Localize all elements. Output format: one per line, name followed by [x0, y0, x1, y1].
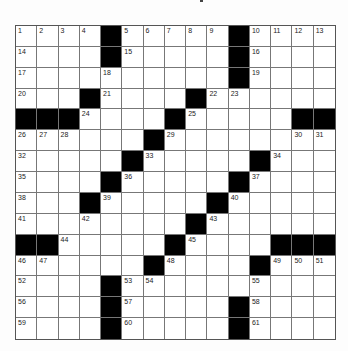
grid-cell[interactable]: [292, 172, 313, 193]
grid-cell[interactable]: 50: [292, 256, 313, 277]
grid-cell[interactable]: [59, 89, 80, 110]
grid-cell[interactable]: [207, 235, 228, 256]
grid-cell[interactable]: 1: [16, 26, 37, 47]
grid-cell[interactable]: [229, 151, 250, 172]
grid-cell[interactable]: [250, 214, 271, 235]
grid-cell[interactable]: [314, 297, 335, 318]
grid-cell[interactable]: [207, 256, 228, 277]
grid-cell[interactable]: 14: [16, 47, 37, 68]
grid-cell[interactable]: [250, 109, 271, 130]
grid-cell[interactable]: 40: [229, 193, 250, 214]
grid-cell[interactable]: [122, 193, 143, 214]
grid-cell[interactable]: [186, 47, 207, 68]
grid-cell[interactable]: [144, 297, 165, 318]
grid-cell[interactable]: [292, 89, 313, 110]
grid-cell[interactable]: [101, 151, 122, 172]
grid-cell[interactable]: 29: [165, 130, 186, 151]
grid-cell[interactable]: 26: [16, 130, 37, 151]
grid-cell[interactable]: [186, 297, 207, 318]
grid-cell[interactable]: [80, 235, 101, 256]
grid-cell[interactable]: [271, 109, 292, 130]
grid-cell[interactable]: [37, 47, 58, 68]
grid-cell[interactable]: 5: [122, 26, 143, 47]
grid-cell[interactable]: 43: [207, 214, 228, 235]
grid-cell[interactable]: [314, 214, 335, 235]
grid-cell[interactable]: 33: [144, 151, 165, 172]
grid-cell[interactable]: 7: [165, 26, 186, 47]
grid-cell[interactable]: 17: [16, 68, 37, 89]
grid-cell[interactable]: [80, 276, 101, 297]
grid-cell[interactable]: [165, 172, 186, 193]
grid-cell[interactable]: 4: [80, 26, 101, 47]
grid-cell[interactable]: 21: [101, 89, 122, 110]
grid-cell[interactable]: [186, 318, 207, 339]
grid-cell[interactable]: [250, 235, 271, 256]
grid-cell[interactable]: [186, 276, 207, 297]
grid-cell[interactable]: [292, 193, 313, 214]
grid-cell[interactable]: [165, 193, 186, 214]
grid-cell[interactable]: 28: [59, 130, 80, 151]
grid-cell[interactable]: [59, 276, 80, 297]
grid-cell[interactable]: 24: [80, 109, 101, 130]
grid-cell[interactable]: [37, 89, 58, 110]
grid-cell[interactable]: [101, 214, 122, 235]
grid-cell[interactable]: 35: [16, 172, 37, 193]
grid-cell[interactable]: [59, 297, 80, 318]
grid-cell[interactable]: 52: [16, 276, 37, 297]
grid-cell[interactable]: 58: [250, 297, 271, 318]
grid-cell[interactable]: [37, 151, 58, 172]
grid-cell[interactable]: [165, 276, 186, 297]
grid-cell[interactable]: [59, 68, 80, 89]
grid-cell[interactable]: 8: [186, 26, 207, 47]
grid-cell[interactable]: [186, 68, 207, 89]
grid-cell[interactable]: [80, 47, 101, 68]
grid-cell[interactable]: [165, 151, 186, 172]
grid-cell[interactable]: [314, 318, 335, 339]
grid-cell[interactable]: 6: [144, 26, 165, 47]
grid-cell[interactable]: 32: [16, 151, 37, 172]
grid-cell[interactable]: 45: [186, 235, 207, 256]
grid-cell[interactable]: [122, 68, 143, 89]
grid-cell[interactable]: 49: [271, 256, 292, 277]
grid-cell[interactable]: [122, 235, 143, 256]
grid-cell[interactable]: 36: [122, 172, 143, 193]
grid-cell[interactable]: [165, 68, 186, 89]
grid-cell[interactable]: 13: [314, 26, 335, 47]
grid-cell[interactable]: [271, 68, 292, 89]
grid-cell[interactable]: [144, 235, 165, 256]
grid-cell[interactable]: 37: [250, 172, 271, 193]
grid-cell[interactable]: [165, 214, 186, 235]
grid-cell[interactable]: [80, 68, 101, 89]
grid-cell[interactable]: [207, 276, 228, 297]
grid-cell[interactable]: [144, 89, 165, 110]
grid-cell[interactable]: 60: [122, 318, 143, 339]
grid-cell[interactable]: [186, 151, 207, 172]
grid-cell[interactable]: [59, 47, 80, 68]
grid-cell[interactable]: [80, 318, 101, 339]
grid-cell[interactable]: [122, 256, 143, 277]
grid-cell[interactable]: [144, 68, 165, 89]
grid-cell[interactable]: [144, 47, 165, 68]
grid-cell[interactable]: [271, 297, 292, 318]
grid-cell[interactable]: 15: [122, 47, 143, 68]
grid-cell[interactable]: [250, 89, 271, 110]
grid-cell[interactable]: [80, 297, 101, 318]
grid-cell[interactable]: [292, 276, 313, 297]
grid-cell[interactable]: [271, 130, 292, 151]
grid-cell[interactable]: 56: [16, 297, 37, 318]
grid-cell[interactable]: [271, 193, 292, 214]
grid-cell[interactable]: 3: [59, 26, 80, 47]
grid-cell[interactable]: [37, 214, 58, 235]
grid-cell[interactable]: 57: [122, 297, 143, 318]
grid-cell[interactable]: [207, 172, 228, 193]
grid-cell[interactable]: [101, 235, 122, 256]
grid-cell[interactable]: [101, 109, 122, 130]
grid-cell[interactable]: [292, 68, 313, 89]
grid-cell[interactable]: [271, 318, 292, 339]
grid-cell[interactable]: [314, 276, 335, 297]
grid-cell[interactable]: [314, 193, 335, 214]
grid-cell[interactable]: 16: [250, 47, 271, 68]
grid-cell[interactable]: [250, 193, 271, 214]
grid-cell[interactable]: [292, 297, 313, 318]
grid-cell[interactable]: [59, 172, 80, 193]
